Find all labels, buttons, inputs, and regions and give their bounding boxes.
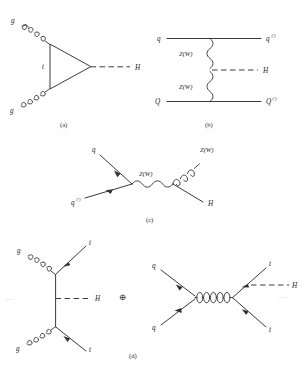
top-quark-loop-a <box>50 45 91 90</box>
top-quark-out-bottom-d <box>56 327 86 351</box>
label-quark-in-top-c: q <box>92 146 96 154</box>
label-quark-in-top-d2: q <box>152 262 156 270</box>
label-gluon-in-top-a: g <box>11 17 15 25</box>
gluon-propagator-d2 <box>195 292 233 302</box>
panel-d-right: q q t t H <box>152 260 298 334</box>
label-quark-out-top-sup-b: (') <box>272 33 277 38</box>
label-top-out-d2: t <box>269 260 272 268</box>
boson-line-out-c <box>173 164 200 186</box>
trailing-ellipsis-d: ... <box>279 292 287 300</box>
panel-c: q q (') Z(W) Z(W) H (c) <box>71 146 214 224</box>
gluon-tail-top-a <box>45 41 50 44</box>
quark-line-in-top-c <box>100 155 132 184</box>
panel-d-left: ... g g t t H <box>6 239 101 354</box>
label-top-quark-loop-a: t <box>42 63 45 71</box>
gluon-tail-top-d <box>51 271 56 275</box>
caption-a: (a) <box>60 121 67 129</box>
label-antitop-out-d2: t <box>269 326 272 334</box>
boson-propagator-bottom-b <box>207 72 213 102</box>
gluon-line-top-a <box>22 25 45 41</box>
caption-b: (b) <box>205 121 213 129</box>
oplus-symbol: ⊕ <box>119 292 127 302</box>
quark-line-in-bottom-d2 <box>161 299 195 325</box>
label-antiquark-in-bottom-d2: q <box>152 324 156 332</box>
label-quark-out-bottom-b: Q <box>266 98 272 106</box>
label-higgs-out-a: H <box>134 64 141 72</box>
label-gluon-in-bottom-a: g <box>10 107 14 115</box>
label-boson-out-c: Z(W) <box>200 146 214 154</box>
label-top-out-d: t <box>89 239 92 247</box>
label-quark-in-top-b: q <box>157 35 161 43</box>
label-gluon-in-top-d: g <box>17 247 21 255</box>
panel-b: q q (') Q Q (') Z(W) Z(W) H (b) <box>155 33 277 129</box>
top-quark-out-top-d <box>56 246 86 274</box>
label-boson-propagator-c: Z(W) <box>139 170 153 178</box>
label-antitop-out-d: t <box>89 346 92 354</box>
boson-propagator-c <box>132 181 173 187</box>
label-quark-in-bottom-c: q <box>71 199 75 207</box>
gluon-tail-bottom-d <box>51 327 55 330</box>
higgs-line-c <box>173 184 203 202</box>
arrow-out-top-d <box>63 262 70 267</box>
label-quark-in-bottom-sup-c: (') <box>77 197 82 202</box>
arrow-in-top-c <box>114 171 121 178</box>
leading-ellipsis-d: ... <box>6 294 14 302</box>
label-boson-top-b: Z(W) <box>179 50 193 58</box>
arrow-out-top-d2 <box>242 284 249 287</box>
feynman-figure: g g t H (a) q q (') Q Q (') <box>0 0 307 376</box>
boson-propagator-top-b <box>207 39 213 69</box>
caption-c: (c) <box>146 216 153 224</box>
top-quark-out-top-d2 <box>233 268 267 298</box>
label-higgs-out-b: H <box>262 67 269 75</box>
gluon-line-top-d <box>28 255 52 271</box>
gluon-tail-bottom-a <box>45 89 50 92</box>
label-higgs-out-d-right: H <box>291 282 298 290</box>
caption-d: (d) <box>129 352 137 360</box>
diagram-canvas: g g t H (a) q q (') Q Q (') <box>0 0 307 376</box>
label-quark-out-top-b: q <box>266 35 270 43</box>
label-gluon-in-bottom-d: g <box>16 345 20 353</box>
gluon-line-bottom-d <box>27 329 51 345</box>
label-boson-bottom-b: Z(W) <box>179 83 193 91</box>
gluon-line-bottom-a <box>21 91 45 107</box>
label-quark-out-bottom-sup-b: (') <box>273 96 278 101</box>
arrow-out-bottom-d2 <box>242 309 249 315</box>
top-quark-out-bottom-d2 <box>233 298 267 327</box>
panel-a: g g t H (a) <box>10 17 141 129</box>
quark-line-in-top-d2 <box>161 270 195 296</box>
label-quark-in-bottom-b: Q <box>155 98 161 106</box>
label-higgs-out-d-left: H <box>94 295 101 303</box>
label-higgs-out-c: H <box>207 200 214 208</box>
